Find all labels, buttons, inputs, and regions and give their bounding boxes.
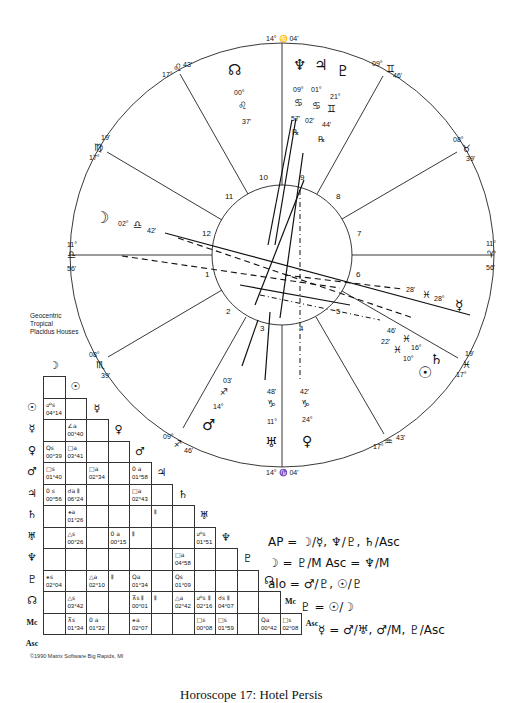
grid-row-label-asc: Asc	[23, 638, 41, 650]
aspect-symbol: 0 a	[111, 530, 120, 537]
grid-row-label-mercury: ☿	[23, 423, 41, 435]
aspect-symbol: □a	[68, 444, 77, 451]
mars-deg: 14°	[213, 403, 224, 411]
aspect-symbol: ⚹a	[132, 616, 140, 623]
aspect-orb: 02°16	[197, 603, 213, 610]
aspect-symbol: Qa	[132, 573, 140, 580]
node-min: 37'	[242, 118, 251, 126]
sagittarius-icon: ♐	[174, 440, 182, 449]
grid-col-label-uranus: ♅	[196, 510, 214, 522]
cusp-2-min: 39'	[101, 372, 110, 380]
aspect-cell	[172, 613, 195, 636]
aspect-cell	[108, 591, 131, 614]
house-number-2: 2	[226, 308, 230, 316]
jupiter-min: 02'	[305, 117, 314, 125]
grid-row-label-node: ☊	[23, 595, 41, 607]
aspect-cell	[43, 419, 66, 442]
aspect-cell: □a04°58	[172, 548, 195, 571]
aspect-symbol: □s	[218, 616, 227, 623]
aspect-cell: □s01°40	[43, 462, 66, 485]
aspect-cell: △s00°26	[65, 527, 88, 550]
aspect-orb: 04°14	[46, 410, 62, 417]
aspect-symbol: △s	[68, 594, 76, 601]
uranus-min: 48'	[267, 388, 276, 396]
aspect-cell	[86, 591, 109, 614]
cusp-5-min: 43'	[396, 434, 405, 442]
jupiter-deg: 01°	[311, 86, 322, 94]
aspect-cell	[151, 570, 174, 593]
aspect-orb: 02°43	[132, 496, 148, 503]
aspect-cell: □a03°41	[65, 441, 88, 464]
uranus-sign-icon: ♑	[267, 399, 276, 409]
aspect-cell	[108, 484, 131, 507]
aspect-cell: ∠a00°40	[65, 419, 88, 442]
aspect-symbol: 0 s	[46, 487, 55, 494]
libra-icon: ♎	[67, 250, 76, 260]
aspect-cell	[151, 527, 174, 550]
grid-col-label-sun: ☉	[67, 381, 85, 393]
aspect-cell	[65, 570, 88, 593]
aspect-cell	[215, 570, 238, 593]
aspect-cell: □a02°34	[86, 462, 109, 485]
cusp-5-deg: 17°	[373, 443, 384, 451]
aspect-cell	[237, 570, 260, 593]
aspect-cell	[86, 441, 109, 464]
aspect-cell: △s03°42	[65, 591, 88, 614]
node-deg: 00°	[234, 89, 245, 97]
taurus-icon: ♉	[462, 144, 471, 154]
aspect-symbol: ☍s	[197, 530, 206, 537]
aquarius-icon: ♒	[384, 437, 393, 447]
aspect-cell	[129, 548, 152, 571]
aspect-cell: ⚹s02°04	[43, 570, 66, 593]
aspect-cell	[43, 527, 66, 550]
aspect-cell: □a02°43	[129, 484, 152, 507]
aspect-cell	[194, 548, 217, 571]
house-number-10: 10	[259, 174, 268, 182]
aspect-symbol: □s	[283, 616, 292, 623]
mercury-sign-icon: ♓	[422, 290, 431, 300]
aspect-orb: 00°39	[46, 453, 62, 460]
house-number-7: 7	[357, 230, 361, 238]
aspect-orb: 00°56	[46, 496, 62, 503]
aspect-cell	[129, 505, 152, 528]
aspect-cell	[86, 484, 109, 507]
aspect-cell	[86, 419, 109, 442]
aspect-symbol: ⫴	[111, 573, 114, 580]
aspect-cell	[86, 505, 109, 528]
aspect-symbol: △a	[175, 594, 183, 601]
aspect-cell	[151, 548, 174, 571]
aspect-orb: 02°04	[46, 582, 62, 589]
cusp-8-min: 39'	[466, 155, 475, 163]
aspect-symbol: ⊼s	[68, 616, 76, 623]
cusp-dsc-min: 56'	[486, 264, 495, 272]
aspect-cell	[258, 591, 281, 614]
aspect-orb: 02°42	[175, 603, 191, 610]
aspect-cell	[108, 548, 131, 571]
aspect-orb: 00°42	[261, 625, 277, 632]
grid-col-label-moon: ☽	[45, 360, 63, 372]
mars-sign-icon: ♐	[220, 388, 228, 397]
aspect-cell: Qs00°39	[43, 441, 66, 464]
aspect-cell: ☍s04°14	[43, 398, 66, 421]
grid-col-label-venus: ♀	[110, 424, 128, 436]
node-icon: ☊	[228, 63, 241, 78]
pluto-icon: ♇	[336, 64, 349, 79]
aspect-cell	[194, 570, 217, 593]
aspect-symbol: 0 a	[89, 616, 98, 623]
mars-icon: ♂	[202, 418, 215, 433]
aspect-orb: 01°34	[68, 625, 84, 632]
aspect-cell	[237, 591, 260, 614]
uranus-deg: 11°	[267, 418, 277, 426]
jupiter-icon: ♃	[314, 58, 327, 73]
moon-deg: 02°	[118, 220, 129, 228]
note-line-1: AP = ☽/☿, ♆/♇, ♄/Asc	[268, 535, 400, 549]
aspect-symbol: Qs	[175, 573, 183, 580]
aspect-cell	[43, 591, 66, 614]
mars-min: 03'	[223, 377, 232, 385]
aspect-orb: 01°58	[132, 474, 148, 481]
house-number-9: 9	[300, 174, 304, 182]
aspect-cell: ☌s ⫴04°07	[215, 591, 238, 614]
aspect-cell	[43, 376, 66, 399]
aspect-cell	[86, 527, 109, 550]
cusp-dsc-deg: 11°	[486, 240, 496, 248]
